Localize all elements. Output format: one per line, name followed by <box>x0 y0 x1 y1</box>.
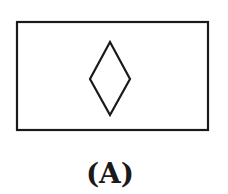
diamond-shape <box>90 42 130 115</box>
figure-label: (A) <box>0 157 220 191</box>
outer-rectangle <box>17 22 208 130</box>
